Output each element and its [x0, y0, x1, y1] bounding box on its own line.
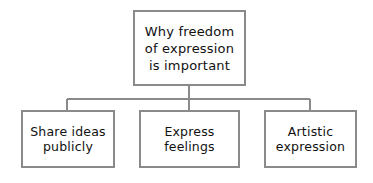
- node-root[interactable]: Why freedom of expression is important: [133, 10, 246, 86]
- node-share-ideas-publicly[interactable]: Share ideas publicly: [21, 110, 115, 168]
- node-root-label: Why freedom of expression is important: [142, 23, 238, 74]
- node-child-2-label: Artistic expression: [273, 124, 348, 155]
- node-express-feelings[interactable]: Express feelings: [139, 110, 240, 168]
- node-child-0-label: Share ideas publicly: [27, 124, 109, 155]
- diagram-canvas: Why freedom of expression is important S…: [0, 0, 373, 183]
- node-artistic-expression[interactable]: Artistic expression: [264, 110, 357, 168]
- node-child-1-label: Express feelings: [161, 124, 218, 155]
